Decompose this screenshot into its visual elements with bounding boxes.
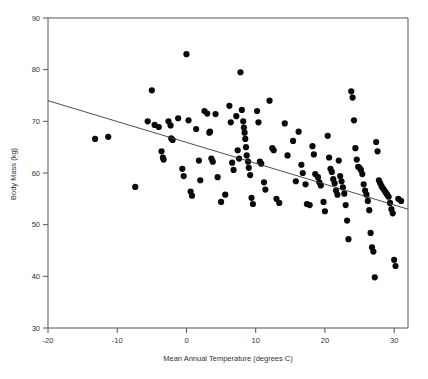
data-point [298,162,304,168]
data-point [284,152,290,158]
data-point [250,201,256,207]
scatter-chart: -20-100102030 30405060708090 Mean Annual… [0,0,428,379]
data-point [359,171,365,177]
x-axis-title: Mean Annual Temperature (degrees C) [163,354,293,363]
data-point [196,158,202,164]
data-point [366,207,372,213]
data-point [300,170,306,176]
data-point [350,94,356,100]
data-point [229,160,235,166]
data-point [248,195,254,201]
data-point [332,180,338,186]
x-tick-label: 0 [184,336,188,345]
data-point [345,236,351,242]
data-point [302,181,308,187]
data-point [307,202,313,208]
data-point [343,202,349,208]
y-tick-label: 40 [32,272,40,281]
data-point [167,122,173,128]
data-point [179,166,185,172]
data-point [365,198,371,204]
chart-canvas: -20-100102030 30405060708090 Mean Annual… [0,0,428,379]
data-point [175,115,181,121]
data-point [290,138,296,144]
y-axis-ticks: 30405060708090 [32,14,48,333]
data-point [210,159,216,165]
x-tick-label: -10 [112,336,123,345]
data-point [320,199,326,205]
data-point [243,144,249,150]
data-point [261,179,267,185]
y-tick-label: 30 [32,324,40,333]
x-tick-label: 10 [252,336,260,345]
data-point [334,192,340,198]
data-point [293,178,299,184]
data-point [233,113,239,119]
data-point [132,184,138,190]
data-point [311,151,317,157]
data-point [352,145,358,151]
data-point [161,156,167,162]
regression-line [48,101,408,210]
data-point [212,111,218,117]
data-point [197,177,203,183]
data-point [189,193,195,199]
data-point [322,208,328,214]
y-tick-label: 50 [32,220,40,229]
data-point [282,120,288,126]
data-point [158,148,164,154]
data-point [398,198,404,204]
y-tick-label: 80 [32,65,40,74]
data-point [326,154,332,160]
data-point [149,87,155,93]
data-point [183,51,189,57]
data-point [215,174,221,180]
plot-frame [48,18,408,328]
data-point [239,107,245,113]
data-point [181,173,187,179]
data-point [235,147,241,153]
data-point [244,152,250,158]
data-point [390,210,396,216]
data-point [336,158,342,164]
data-point [266,98,272,104]
data-point [315,174,321,180]
data-point [296,129,302,135]
data-point [105,134,111,140]
data-point [370,248,376,254]
data-point [354,156,360,162]
data-point [222,192,228,198]
data-point [242,136,248,142]
data-point [372,274,378,280]
data-point [344,217,350,223]
y-axis-title: Body Mass (kg) [9,147,18,200]
x-axis-ticks: -20-100102030 [43,328,399,345]
data-points-layer [92,51,404,280]
data-point [386,194,392,200]
y-tick-label: 70 [32,117,40,126]
x-tick-label: 30 [390,336,398,345]
data-point [247,172,253,178]
data-point [145,118,151,124]
data-point [391,257,397,263]
data-point [240,118,246,124]
data-point [309,143,315,149]
x-tick-label: 20 [321,336,329,345]
data-point [271,147,277,153]
data-point [218,199,224,205]
data-point [255,119,261,125]
data-point [246,165,252,171]
data-point [254,108,260,114]
x-tick-label: -20 [43,336,54,345]
data-point [368,230,374,236]
data-point [373,139,379,145]
data-point [276,200,282,206]
y-tick-label: 90 [32,14,40,23]
data-point [242,130,248,136]
data-point [348,88,354,94]
data-point [338,178,344,184]
data-point [237,69,243,75]
y-tick-label: 60 [32,169,40,178]
data-point [341,191,347,197]
trend-line-layer [48,101,408,210]
